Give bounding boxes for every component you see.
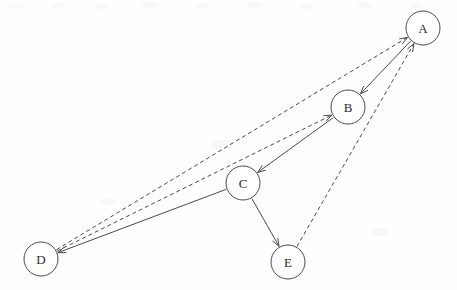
- node-label: B: [344, 100, 353, 115]
- edge-c-e: [252, 199, 279, 247]
- node-e[interactable]: E: [271, 245, 305, 279]
- edge-line: [360, 41, 410, 94]
- node-b[interactable]: B: [331, 90, 365, 124]
- edge-line: [252, 199, 279, 247]
- edge-d-a: [56, 37, 407, 249]
- node-label: E: [284, 255, 292, 270]
- edge-line: [58, 189, 226, 252]
- edge-d-b: [57, 115, 332, 251]
- edge-b-c: [258, 118, 334, 173]
- arrowhead: [273, 238, 280, 246]
- node-label: C: [239, 176, 248, 191]
- node-label: D: [36, 252, 45, 267]
- arrowhead: [399, 37, 407, 44]
- edge-layer: [56, 37, 414, 252]
- graph-svg: ABCDE: [0, 0, 457, 290]
- edge-c-d: [58, 189, 226, 252]
- edge-line: [56, 37, 407, 249]
- arrowhead: [323, 115, 332, 121]
- edge-line: [57, 115, 332, 251]
- edge-line: [297, 44, 414, 247]
- node-a[interactable]: A: [406, 11, 440, 45]
- node-layer: ABCDE: [24, 11, 440, 279]
- edge-e-a: [297, 44, 414, 247]
- diagram-canvas: ABCDE: [0, 0, 457, 290]
- node-label: A: [418, 21, 428, 36]
- arrowhead: [407, 44, 414, 52]
- node-d[interactable]: D: [24, 242, 58, 276]
- edge-line: [258, 118, 334, 173]
- edge-a-b: [360, 41, 410, 94]
- node-c[interactable]: C: [226, 166, 260, 200]
